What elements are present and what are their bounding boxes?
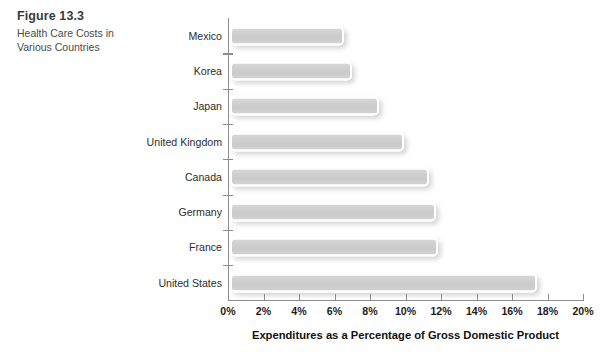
bar-mexico — [230, 26, 344, 45]
bar-row: United States — [0, 265, 613, 300]
figure-container: Figure 13.3 Health Care Costs in Various… — [0, 0, 613, 355]
x-axis-tick-label: 14% — [466, 305, 487, 317]
bar-row: Germany — [0, 195, 613, 230]
x-axis-tick — [441, 294, 442, 301]
x-axis-tick — [406, 294, 407, 301]
x-axis-tick-label: 4% — [291, 305, 306, 317]
bar-korea — [230, 61, 352, 80]
bar-row: Mexico — [0, 18, 613, 53]
bar-fill — [230, 203, 436, 222]
bar-row: Japan — [0, 89, 613, 124]
category-label-canada: Canada — [60, 171, 222, 183]
category-label-germany: Germany — [60, 206, 222, 218]
bar-row: Korea — [0, 53, 613, 88]
bar-fill — [230, 167, 429, 186]
category-label-japan: Japan — [60, 100, 222, 112]
bar-germany — [230, 203, 436, 222]
bar-fill — [230, 238, 438, 257]
y-axis-tick — [223, 53, 233, 54]
category-label-mexico: Mexico — [60, 30, 222, 42]
y-axis-tick — [223, 124, 233, 125]
x-axis-tick — [583, 294, 584, 301]
bar-canada — [230, 167, 429, 186]
x-axis-tick-label: 12% — [430, 305, 451, 317]
y-axis-tick — [223, 89, 233, 90]
x-axis-tick — [370, 294, 371, 301]
y-axis-tick — [223, 195, 233, 196]
bar-row: Canada — [0, 159, 613, 194]
x-axis-tick-label: 2% — [256, 305, 271, 317]
x-axis-tick-label: 10% — [395, 305, 416, 317]
x-axis-tick-label: 6% — [327, 305, 342, 317]
x-axis-tick-label: 20% — [572, 305, 593, 317]
bar-fill — [230, 132, 404, 151]
bar-japan — [230, 97, 379, 116]
category-label-france: France — [60, 241, 222, 253]
bar-france — [230, 238, 438, 257]
bar-united-states — [230, 273, 537, 292]
category-label-united-states: United States — [60, 277, 222, 289]
bar-chart-plot: MexicoKoreaJapanUnited KingdomCanadaGerm… — [0, 0, 613, 355]
y-axis-tick — [223, 159, 233, 160]
x-axis-tick-label: 0% — [220, 305, 235, 317]
x-axis-tick — [512, 294, 513, 301]
bar-fill — [230, 61, 352, 80]
x-axis-tick — [228, 294, 229, 301]
category-label-korea: Korea — [60, 65, 222, 77]
y-axis-tick — [223, 230, 233, 231]
bar-fill — [230, 26, 344, 45]
x-axis-title: Expenditures as a Percentage of Gross Do… — [228, 329, 583, 341]
x-axis-tick — [548, 294, 549, 301]
bar-row: United Kingdom — [0, 124, 613, 159]
y-axis-tick — [223, 265, 233, 266]
bar-row: France — [0, 230, 613, 265]
bar-united-kingdom — [230, 132, 404, 151]
bar-fill — [230, 273, 537, 292]
x-axis-tick — [477, 294, 478, 301]
x-axis-tick — [264, 294, 265, 301]
x-axis-tick — [335, 294, 336, 301]
x-axis-tick-label: 18% — [537, 305, 558, 317]
x-axis-tick-label: 8% — [362, 305, 377, 317]
category-label-united-kingdom: United Kingdom — [60, 136, 222, 148]
x-axis-tick-label: 16% — [501, 305, 522, 317]
bar-fill — [230, 97, 379, 116]
x-axis-tick — [299, 294, 300, 301]
